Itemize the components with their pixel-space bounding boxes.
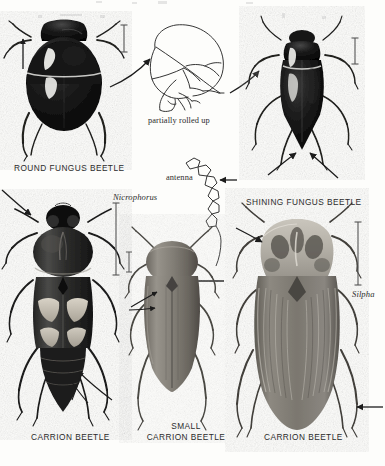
caption-carrion-beetle-right: CARRION BEETLE (264, 432, 343, 443)
caption-small-carrion-beetle-line1: SMALL (144, 421, 228, 432)
caption-partially-rolled-up: partially rolled up (148, 116, 210, 127)
caption-small-carrion-beetle: SMALL CARRION BEETLE (144, 421, 228, 442)
genus-label-nicrophorus: Nicrophorus (113, 192, 157, 202)
genus-label-silpha: Silpha (352, 289, 375, 299)
caption-round-fungus-beetle: ROUND FUNGUS BEETLE (14, 163, 124, 174)
plate-artwork (0, 0, 385, 466)
caption-antenna: antenna (166, 173, 193, 184)
beetle-plate (0, 0, 385, 466)
caption-carrion-beetle-left: CARRION BEETLE (31, 432, 110, 443)
caption-small-carrion-beetle-line2: CARRION BEETLE (144, 432, 228, 443)
caption-shining-fungus-beetle: SHINING FUNGUS BEETLE (246, 197, 361, 208)
